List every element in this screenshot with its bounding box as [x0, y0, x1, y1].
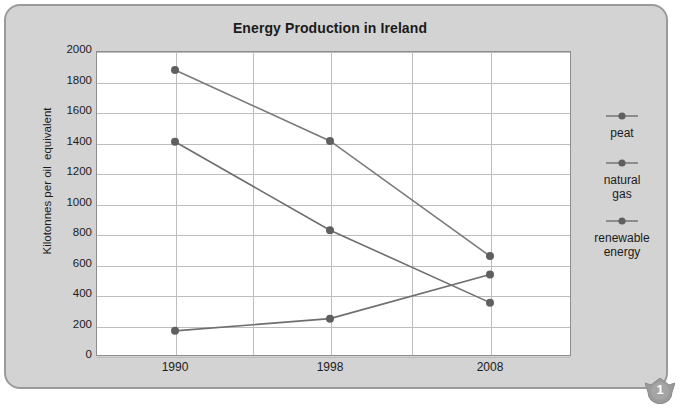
y-axis-tick: 0 [40, 348, 92, 360]
legend-label: renewable [578, 231, 666, 245]
legend-marker-icon [600, 110, 644, 122]
legend-marker-icon [600, 215, 644, 227]
legend-entry: renewableenergy [578, 215, 666, 259]
gridline-horizontal [97, 205, 570, 206]
legend-label: peat [578, 126, 666, 140]
y-axis-tick: 200 [40, 318, 92, 330]
chart-title: Energy Production in Ireland [90, 20, 570, 36]
gridline-vertical [176, 52, 177, 355]
gridline-horizontal [97, 327, 570, 328]
legend-entry: peat [578, 110, 666, 140]
gridline-vertical [412, 52, 413, 355]
gridline-horizontal [97, 83, 570, 84]
gridline-horizontal [97, 144, 570, 145]
page-number: 1 [645, 382, 675, 397]
y-axis-tick: 2000 [40, 43, 92, 55]
gridline-horizontal [97, 52, 570, 53]
gridline-horizontal [97, 235, 570, 236]
gridlines [97, 52, 570, 355]
gridline-horizontal [97, 174, 570, 175]
plot-area [96, 51, 571, 356]
gridline-vertical [253, 52, 254, 355]
y-axis-tick: 400 [40, 287, 92, 299]
x-axis-tick-labels: 199019982008 [96, 360, 571, 382]
x-axis-tick: 1998 [290, 360, 370, 374]
chart-page: Energy Production in Ireland 20001800160… [0, 0, 682, 410]
page-number-badge: 1 [645, 378, 675, 404]
y-axis-title: Kilotonnes per oil equivalent [41, 76, 53, 286]
gridline-horizontal [97, 266, 570, 267]
gridline-vertical [331, 52, 332, 355]
gridline-vertical [491, 52, 492, 355]
legend-label: gas [578, 187, 666, 201]
legend-label: energy [578, 245, 666, 259]
gridline-horizontal [97, 357, 570, 358]
legend-label: natural [578, 173, 666, 187]
gridline-horizontal [97, 296, 570, 297]
chart-legend: peatnaturalgasrenewableenergy [578, 110, 666, 276]
legend-marker-icon [600, 157, 644, 169]
legend-entry: naturalgas [578, 157, 666, 201]
x-axis-tick: 1990 [135, 360, 215, 374]
x-axis-tick: 2008 [450, 360, 530, 374]
gridline-horizontal [97, 113, 570, 114]
